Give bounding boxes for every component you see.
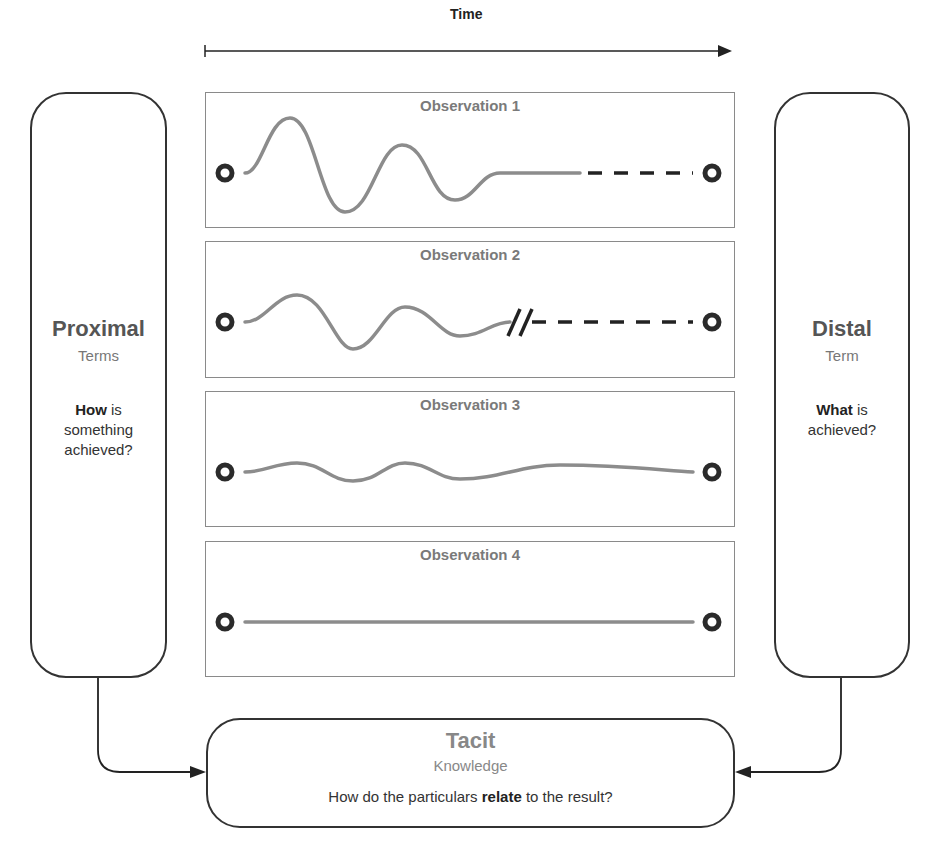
tacit-question-pre: How do the particulars (328, 788, 481, 805)
tacit-subtitle: Knowledge (208, 757, 733, 774)
distal-to-tacit-connector (735, 678, 841, 778)
distal-question-rest: is (853, 401, 868, 418)
observation-box-2: Observation 2 (205, 241, 735, 378)
distal-term-box: Distal Term What is achieved? (774, 92, 910, 678)
observation-title: Observation 2 (206, 246, 734, 263)
time-arrowhead-icon (718, 45, 732, 57)
distal-question-bold: What (816, 401, 853, 418)
proximal-question-line3: achieved? (32, 440, 165, 460)
proximal-question: How is something achieved? (32, 400, 165, 460)
time-axis-label: Time (450, 6, 482, 22)
proximal-subtitle: Terms (32, 347, 165, 364)
distal-question-line2: achieved? (776, 420, 908, 440)
proximal-terms-box: Proximal Terms How is something achieved… (30, 92, 167, 678)
proximal-question-line2: something (32, 420, 165, 440)
observation-title: Observation 1 (206, 97, 734, 114)
distal-question: What is achieved? (776, 400, 908, 440)
proximal-to-tacit-connector (98, 678, 206, 778)
arrowhead-icon (735, 766, 751, 778)
observation-title: Observation 4 (206, 546, 734, 563)
tacit-title: Tacit (208, 728, 733, 754)
observation-box-3: Observation 3 (205, 391, 735, 527)
tacit-question: How do the particulars relate to the res… (208, 788, 733, 805)
tacit-knowledge-box: Tacit Knowledge How do the particulars r… (206, 718, 735, 828)
tacit-question-post: to the result? (522, 788, 613, 805)
distal-subtitle: Term (776, 347, 908, 364)
proximal-title: Proximal (32, 316, 165, 342)
observation-box-1: Observation 1 (205, 92, 735, 228)
tacit-question-bold: relate (482, 788, 522, 805)
proximal-question-bold: How (75, 401, 107, 418)
observation-box-4: Observation 4 (205, 541, 735, 677)
arrowhead-icon (190, 766, 206, 778)
time-axis (205, 45, 732, 57)
proximal-question-rest: is (107, 401, 122, 418)
distal-title: Distal (776, 316, 908, 342)
observation-title: Observation 3 (206, 396, 734, 413)
